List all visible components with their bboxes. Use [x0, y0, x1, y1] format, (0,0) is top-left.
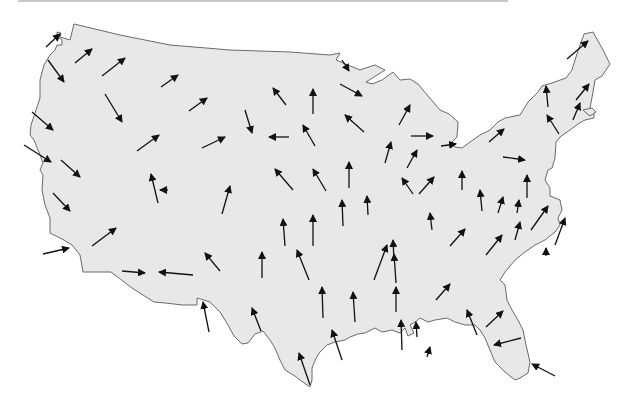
us-vector-field-map [0, 0, 634, 408]
vector-arrow-icon [427, 347, 430, 357]
us-land-outline [30, 24, 610, 387]
vector-arrow-icon [532, 364, 555, 376]
vector-arrow-icon [203, 302, 209, 332]
vector-arrow-icon [43, 248, 69, 254]
vector-arrow-icon [416, 322, 417, 337]
